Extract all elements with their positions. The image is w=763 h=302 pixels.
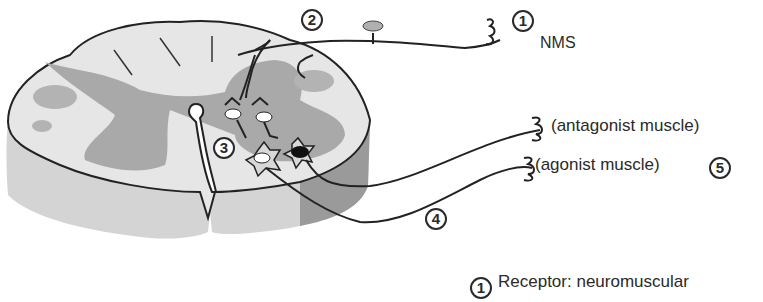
nms-label: NMS: [540, 34, 576, 52]
inhibited-motor-neuron: [291, 146, 309, 158]
interneuron-inhibitory-relay: [256, 112, 272, 122]
spinal-cord-diagram: [0, 0, 763, 302]
marker-4: 4: [425, 208, 447, 230]
legend-text-1: Receptor: neuromuscular: [498, 272, 689, 292]
marker-5: 5: [709, 157, 731, 179]
marker-1: 1: [512, 10, 534, 32]
tract-patch-left-large: [33, 85, 77, 109]
muscle-ending-agonist-icon: [524, 157, 534, 180]
agonist-soma: [254, 153, 270, 163]
legend-marker-1: 1: [470, 277, 492, 299]
tract-patch-left-small: [32, 120, 52, 132]
marker-2: 2: [301, 9, 323, 31]
muscle-ending-antagonist-icon: [532, 117, 542, 140]
marker-3: 3: [213, 137, 235, 159]
interneuron-excitatory: [225, 109, 241, 119]
dorsal-root-ganglion: [363, 21, 383, 31]
antagonist-muscle-label: (antagonist muscle): [551, 116, 699, 136]
receptor-ending-icon: [486, 19, 495, 44]
agonist-muscle-label: (agonist muscle): [535, 155, 660, 175]
